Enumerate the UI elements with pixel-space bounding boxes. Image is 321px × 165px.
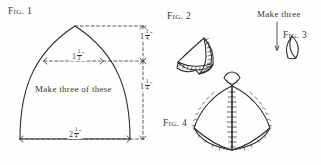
fig2-label: Fig. 2 — [167, 11, 191, 21]
fig3-label: Fig. 3 — [283, 30, 307, 40]
fig1-mid-width-dimension: 112" — [71, 50, 85, 61]
fig3-instruction-label: Make three — [257, 9, 301, 19]
dim-mid-unit: " — [82, 51, 84, 57]
dim-r2-numerator: 1 — [144, 79, 150, 84]
diagram-artwork — [0, 0, 321, 165]
dim-bottom-numerator: 1 — [73, 127, 79, 132]
fig1-dimension-lines — [20, 26, 146, 139]
dim-r1-denominator: 4 — [144, 35, 150, 41]
dim-mid-fraction: 12 — [76, 50, 82, 61]
fig1-lower-height-dimension: 114" — [139, 80, 153, 91]
fig4-label: Fig. 4 — [163, 118, 187, 128]
dim-r1-unit: " — [150, 31, 152, 37]
pattern-diagram-sheet: Fig. 1 Fig. 2 Fig. 3 Fig. 4 Make three M… — [0, 0, 321, 165]
dim-r1-fraction: 14 — [144, 30, 150, 41]
fig1-label: Fig. 1 — [8, 6, 32, 16]
dim-r2-denominator: 4 — [144, 85, 150, 91]
fig1-upper-height-dimension: 114" — [139, 30, 153, 41]
fig4-finished-dome — [194, 72, 270, 150]
dim-r1-numerator: 1 — [144, 29, 150, 34]
fig1-instruction-label: Make three of these — [35, 84, 112, 94]
dim-bottom-fraction: 14 — [73, 128, 79, 139]
dim-mid-denominator: 2 — [76, 55, 82, 61]
fig1-bottom-width-dimension: 214" — [68, 128, 82, 139]
dim-r2-fraction: 14 — [144, 80, 150, 91]
dim-bottom-denominator: 4 — [73, 133, 79, 139]
fig3-pointer-line — [275, 22, 279, 51]
fig1-pattern-outline — [20, 26, 130, 139]
dim-bottom-unit: " — [79, 129, 81, 135]
dim-mid-numerator: 1 — [76, 49, 82, 54]
dim-r2-unit: " — [150, 81, 152, 87]
